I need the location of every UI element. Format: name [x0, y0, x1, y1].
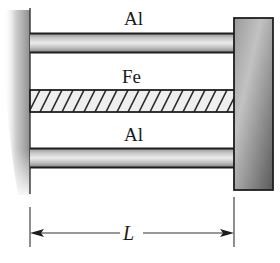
fixed-wall	[4, 8, 30, 195]
middle-iron-bar	[30, 90, 235, 112]
label-length-L: L	[120, 223, 137, 243]
label-top-al: Al	[124, 9, 143, 28]
diagram-canvas: Al Fe Al L	[0, 0, 280, 263]
top-aluminum-rod	[30, 33, 235, 53]
label-bottom-al: Al	[124, 125, 143, 144]
rigid-plate	[234, 18, 273, 190]
bottom-aluminum-rod	[30, 148, 235, 168]
label-middle-fe: Fe	[122, 67, 141, 86]
